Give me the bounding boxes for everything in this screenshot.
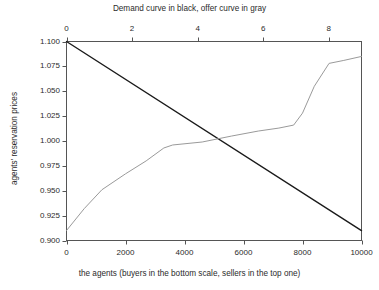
data-series-group (67, 42, 362, 231)
y-tick-label: 1.075 (20, 61, 60, 70)
offer-curve (67, 56, 362, 230)
bottom-tick-label: 2000 (101, 248, 151, 257)
bottom-tick-label: 6000 (219, 248, 269, 257)
y-tick-label: 0.975 (20, 161, 60, 170)
y-axis-ticks (63, 43, 67, 242)
bottom-tick-label: 8000 (278, 248, 328, 257)
top-axis-ticks (68, 38, 330, 42)
y-tick-label: 1.000 (20, 136, 60, 145)
y-tick-label: 1.100 (20, 37, 60, 46)
chart-figure: Demand curve in black, offer curve in gr… (0, 0, 379, 290)
bottom-tick-label: 10000 (337, 248, 379, 257)
bottom-tick-label: 0 (42, 248, 92, 257)
bottom-axis-ticks (68, 241, 363, 245)
top-tick-label: 4 (178, 24, 218, 33)
plot-frame (67, 42, 362, 241)
top-tick-label: 0 (47, 24, 87, 33)
top-tick-label: 2 (112, 24, 152, 33)
y-tick-label: 1.025 (20, 111, 60, 120)
y-tick-label: 0.900 (20, 236, 60, 245)
y-tick-label: 0.950 (20, 186, 60, 195)
demand-curve (67, 42, 362, 231)
top-tick-label: 6 (243, 24, 283, 33)
y-tick-label: 0.925 (20, 211, 60, 220)
y-tick-label: 1.050 (20, 86, 60, 95)
top-tick-label: 8 (309, 24, 349, 33)
bottom-tick-label: 4000 (160, 248, 210, 257)
